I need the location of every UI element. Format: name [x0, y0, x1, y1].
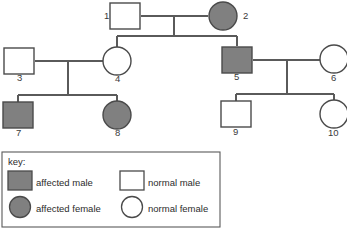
affected-male-symbol: [3, 102, 33, 128]
individual-label-6: 6: [331, 72, 336, 83]
key-title: key:: [8, 156, 25, 167]
affected-female-symbol: [103, 101, 131, 129]
individual-1: 1: [104, 3, 140, 29]
key-label: normal female: [148, 203, 208, 214]
key-swatch-affected-female: [10, 197, 31, 218]
normal-female-symbol: [103, 47, 131, 75]
individual-label-5: 5: [234, 71, 239, 82]
individual-label-4: 4: [115, 73, 120, 84]
individual-label-9: 9: [233, 126, 238, 137]
individual-label-1: 1: [104, 10, 109, 21]
normal-female-symbol: [320, 100, 347, 128]
affected-female-symbol: [209, 2, 237, 30]
normal-female-symbol: [320, 45, 347, 73]
pedigree-chart: 12345678910 key:affected malenormal male…: [0, 0, 347, 229]
normal-male-symbol: [221, 101, 251, 127]
key-label: affected male: [36, 177, 93, 188]
affected-male-symbol: [222, 47, 252, 73]
individual-label-8: 8: [115, 127, 120, 138]
individual-label-2: 2: [243, 10, 248, 21]
key-label: normal male: [148, 177, 200, 188]
key-swatch-affected-male: [8, 171, 32, 190]
pedigree-diagram: 12345678910 key:affected malenormal male…: [0, 0, 347, 229]
individual-label-10: 10: [328, 127, 339, 138]
key-legend: key:affected malenormal maleaffected fem…: [2, 152, 220, 227]
key-swatch-normal-male: [120, 171, 144, 190]
normal-male-symbol: [110, 3, 140, 29]
key-box: [2, 152, 220, 227]
key-swatch-normal-female: [122, 197, 143, 218]
key-label: affected female: [36, 203, 101, 214]
individual-label-3: 3: [17, 72, 22, 83]
individual-label-7: 7: [16, 127, 21, 138]
normal-male-symbol: [4, 48, 34, 74]
